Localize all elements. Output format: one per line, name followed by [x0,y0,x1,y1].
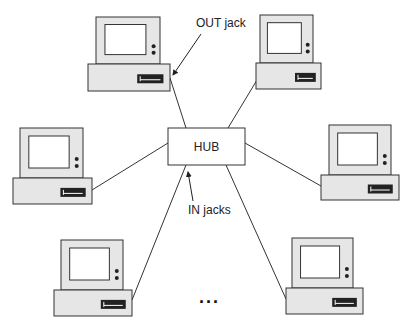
power-button-icon [75,157,79,161]
out-jack-arrow [173,34,201,75]
power-button-icon [152,51,156,55]
in-jacks-arrow [188,172,193,201]
screen [301,246,340,278]
power-button-icon [345,274,349,278]
cable-link [245,143,321,186]
power-button-icon [115,276,119,280]
drive-slot-icon [101,300,126,309]
power-button-icon [115,269,119,273]
computer-bottom-right [286,238,363,314]
screen [105,25,146,55]
computer-top-right [256,15,321,89]
cable-link [170,78,186,128]
screen [338,133,378,165]
drive-slot-icon [137,74,163,83]
computer-mid-right [321,125,399,200]
cable-link [226,165,286,299]
screen [70,248,110,280]
drive-slot-icon [368,185,393,194]
power-button-icon [383,161,387,165]
cable-link [92,143,168,190]
in-jacks-label: IN jacks [188,203,231,217]
power-button-icon [306,43,310,47]
computer-top-left [88,17,170,91]
screen [29,136,69,168]
power-button-icon [152,44,156,48]
computer-bottom-left [54,240,132,316]
cable-links [92,78,321,300]
power-button-icon [345,267,349,271]
cable-link [228,80,257,128]
cable-link [132,165,186,300]
network-diagram [0,0,412,329]
power-button-icon [306,49,310,53]
computer-mid-left [13,128,92,204]
hub-label: HUB [168,140,245,154]
out-jack-label: OUT jack [196,16,246,30]
drive-slot-icon [332,298,357,307]
screen [267,23,301,54]
drive-slot-icon [60,188,85,197]
power-button-icon [75,164,79,168]
power-button-icon [383,154,387,158]
ellipsis-more-computers: ... [199,287,220,308]
